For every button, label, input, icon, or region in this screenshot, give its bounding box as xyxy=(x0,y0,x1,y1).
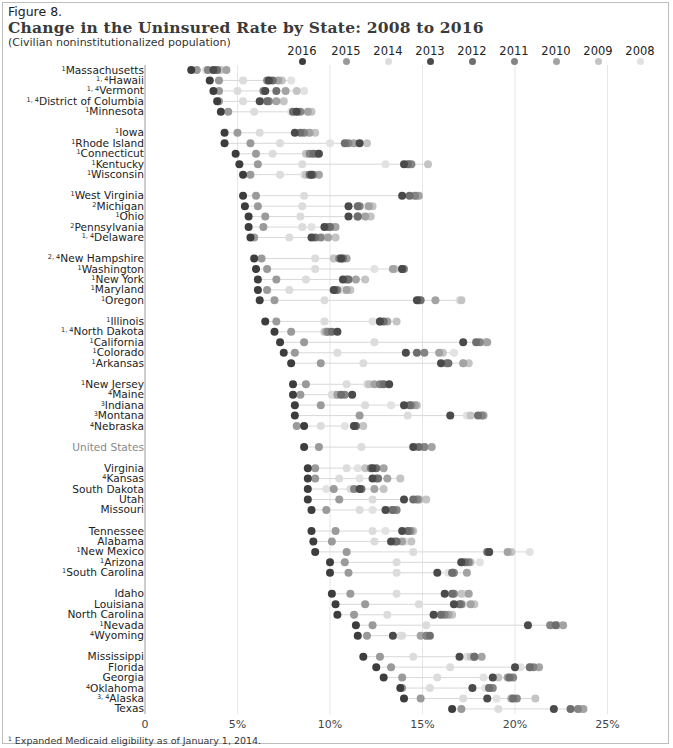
data-point-2015 xyxy=(291,349,299,357)
data-point-2016 xyxy=(448,705,456,713)
data-point-2016 xyxy=(400,695,408,703)
state-name: Missouri xyxy=(100,503,144,515)
footnote-superscript: 1, 4 xyxy=(96,75,108,83)
data-point-2014 xyxy=(333,349,341,357)
footnote-superscript: 3, 4 xyxy=(97,693,109,701)
data-point-2012 xyxy=(272,87,280,95)
data-point-2008 xyxy=(526,548,534,556)
footnote-superscript: 1 xyxy=(78,264,82,272)
footnote-superscript: 1 xyxy=(106,316,110,324)
data-point-2012 xyxy=(426,632,434,640)
data-point-2015 xyxy=(311,475,319,483)
data-point-2016 xyxy=(261,317,269,325)
footnote-marker: 1 xyxy=(8,735,12,742)
data-point-2013 xyxy=(356,139,364,147)
data-point-2015 xyxy=(234,129,242,137)
data-point-2014 xyxy=(359,359,367,367)
x-tick-label: 25% xyxy=(595,718,619,731)
data-point-2014 xyxy=(256,129,264,137)
data-point-2015 xyxy=(252,150,260,158)
data-point-2013 xyxy=(382,506,390,514)
data-point-2013 xyxy=(308,234,316,242)
data-point-2010 xyxy=(304,108,312,116)
data-point-2012 xyxy=(485,684,493,692)
data-point-2016 xyxy=(396,684,404,692)
data-point-2015 xyxy=(387,663,395,671)
data-point-2014 xyxy=(369,496,377,504)
data-point-2016 xyxy=(326,558,334,566)
footnote-superscript: 1, 4 xyxy=(61,326,73,334)
data-point-2010 xyxy=(383,475,391,483)
data-point-2012 xyxy=(341,139,349,147)
data-point-2013 xyxy=(315,150,323,158)
data-point-2013 xyxy=(400,401,408,409)
data-point-2014 xyxy=(433,674,441,682)
data-point-2014 xyxy=(361,401,369,409)
data-point-2013 xyxy=(333,328,341,336)
data-point-2008 xyxy=(322,485,330,493)
data-point-2016 xyxy=(232,150,240,158)
data-point-2015 xyxy=(335,496,343,504)
footnote-superscript: 1 xyxy=(62,65,66,73)
data-point-2013 xyxy=(402,349,410,357)
data-point-2015 xyxy=(328,537,336,545)
data-point-2013 xyxy=(456,653,464,661)
data-point-2010 xyxy=(504,548,512,556)
data-point-2013 xyxy=(485,548,493,556)
state-label: United States xyxy=(72,442,144,453)
data-point-2016 xyxy=(206,76,214,84)
data-point-2013 xyxy=(457,558,465,566)
data-point-2015 xyxy=(317,401,325,409)
data-point-2015 xyxy=(361,600,369,608)
data-point-2014 xyxy=(393,590,401,598)
data-point-2015 xyxy=(215,76,223,84)
data-point-2009 xyxy=(457,590,465,598)
data-point-2016 xyxy=(209,87,217,95)
footnote-superscript: 1 xyxy=(91,284,95,292)
data-point-2010 xyxy=(272,97,280,105)
data-point-2012 xyxy=(337,391,345,399)
footnote-superscript: 4 xyxy=(90,421,94,429)
data-point-2013 xyxy=(550,705,558,713)
data-point-2013 xyxy=(261,87,269,95)
data-point-2014 xyxy=(234,87,242,95)
data-point-2016 xyxy=(254,286,262,294)
data-point-2012 xyxy=(526,663,534,671)
footnote-superscript: 1 xyxy=(115,127,119,135)
data-point-2008 xyxy=(493,695,501,703)
footnote-superscript: 1 xyxy=(93,347,97,355)
data-point-2013 xyxy=(468,684,476,692)
data-point-2015 xyxy=(261,213,269,221)
data-point-2014 xyxy=(404,412,412,420)
data-point-2010 xyxy=(559,621,567,629)
data-point-2016 xyxy=(252,265,260,273)
data-point-2015 xyxy=(376,653,384,661)
data-point-2015 xyxy=(322,506,330,514)
data-point-2013 xyxy=(489,674,497,682)
footnote-superscript: 1 xyxy=(91,159,95,167)
data-point-2013 xyxy=(385,380,393,388)
footnote-superscript: 3 xyxy=(94,410,98,418)
data-point-2010 xyxy=(465,590,473,598)
data-point-2014 xyxy=(398,632,406,640)
data-point-2012 xyxy=(505,674,513,682)
data-point-2008 xyxy=(387,401,395,409)
data-point-2008 xyxy=(382,160,390,168)
data-point-2015 xyxy=(287,328,295,336)
data-point-2015 xyxy=(296,391,304,399)
data-point-2014 xyxy=(320,317,328,325)
data-point-2013 xyxy=(350,422,358,430)
data-point-2014 xyxy=(335,475,343,483)
footnote-superscript: 1, 4 xyxy=(82,232,94,240)
data-point-2014 xyxy=(285,234,293,242)
data-point-2014 xyxy=(311,265,319,273)
x-tick-label: 20% xyxy=(503,718,527,731)
data-point-2014 xyxy=(300,192,308,200)
data-point-2014 xyxy=(409,653,417,661)
data-point-2009 xyxy=(467,412,475,420)
data-point-2008 xyxy=(356,475,364,483)
data-point-2013 xyxy=(430,611,438,619)
data-point-2014 xyxy=(383,611,391,619)
data-point-2014 xyxy=(459,695,467,703)
state-name: Arkansas xyxy=(96,357,144,369)
